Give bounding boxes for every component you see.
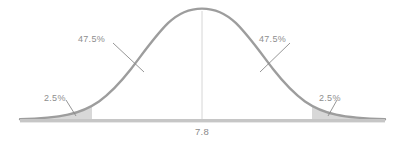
label-percent-left-tail: 2.5% [44, 94, 66, 103]
baseline-axis-bar [20, 119, 385, 122]
label-percent-right-major: 47.5% [259, 35, 286, 44]
label-mean-value: 7.8 [0, 127, 404, 137]
bell-curve-figure: 47.5% 47.5% 2.5% 2.5% 7.8 [0, 0, 404, 146]
normal-distribution-chart [0, 0, 404, 146]
label-percent-left-major: 47.5% [78, 35, 105, 44]
label-percent-right-tail: 2.5% [319, 94, 341, 103]
